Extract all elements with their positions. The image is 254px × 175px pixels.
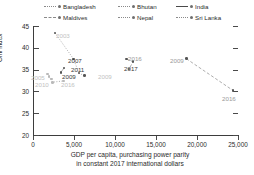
point-year-label: 2003 [56,32,70,39]
x-tick-label: 25,000 [218,141,254,149]
y-tick [34,70,39,71]
point-year-label: 2011 [71,66,84,73]
x-axis-line [33,135,239,136]
point-year-label: 2016 [61,81,75,88]
point-year-label: 2009 [62,73,76,80]
legend-swatch-dotted-icon [176,14,193,22]
y-axis-title: Gini index [0,34,3,62]
x-tick [156,136,157,140]
legend-label: Bhutan [137,3,157,11]
point-year-label: 2007 [68,57,82,64]
y-tick-right [233,113,238,114]
point-year-label: 2016 [128,55,142,62]
legend-swatch-dashed-icon [44,14,61,22]
legend-label: Bangladesh [63,3,96,11]
data-point[interactable] [51,81,54,84]
legend-item-sri-lanka[interactable]: Sri Lanka [176,13,234,23]
y-tick-label: 20 [7,132,29,139]
x-axis-title-line1: GDP per capita, purchasing power parity [30,150,230,159]
x-tick [33,136,34,140]
y-tick-label: 25 [7,110,29,117]
x-tick-label: 10,000 [95,141,135,149]
data-point[interactable] [63,67,66,70]
y-tick [34,48,39,49]
chart-root: Bangladesh Bhutan India Maldives Nepal S… [0,0,254,175]
x-axis-title: GDP per capita, purchasing power parity … [30,150,230,168]
legend-swatch-solid-icon [176,3,193,11]
y-tick [34,91,39,92]
y-tick [34,26,39,27]
x-tick-label: 15,000 [136,141,176,149]
x-tick [238,136,239,140]
y-axis-line [33,26,34,136]
legend-item-nepal[interactable]: Nepal [118,13,176,23]
x-tick [115,136,116,140]
point-year-label: 2009 [98,73,112,80]
point-year-label: 2009 [170,57,184,64]
y-tick [34,113,39,114]
y-tick-right [233,70,238,71]
x-axis-title-line2: in constant 2017 international dollars [30,159,230,168]
legend-label: India [195,3,208,11]
legend-swatch-dotted-icon [118,3,135,11]
point-year-label: 2016 [222,95,236,102]
data-point[interactable] [46,73,49,76]
chart-legend: Bangladesh Bhutan India Maldives Nepal S… [44,2,234,24]
point-year-label: 2005 [31,74,45,81]
data-point[interactable] [83,74,86,77]
legend-item-bangladesh[interactable]: Bangladesh [44,2,118,12]
point-year-label: 2010 [35,81,49,88]
legend-item-maldives[interactable]: Maldives [44,13,118,23]
legend-label: Sri Lanka [195,14,221,22]
data-point[interactable] [185,57,188,60]
x-tick [197,136,198,140]
legend-item-india[interactable]: India [176,2,234,12]
series-line-sri-lanka [186,59,233,91]
y-tick-label: 40 [7,44,29,51]
point-year-label: 2017 [124,65,138,72]
y-tick-right [233,26,238,27]
x-tick-label: 0 [13,141,53,149]
x-tick-label: 20,000 [177,141,217,149]
y-tick-label: 30 [7,88,29,95]
x-tick [74,136,75,140]
legend-label: Maldives [63,14,87,22]
y-tick-label: 45 [7,23,29,30]
x-tick-label: 5,000 [54,141,94,149]
y-tick [34,135,39,136]
legend-item-bhutan[interactable]: Bhutan [118,2,176,12]
y-tick-label: 35 [7,66,29,73]
legend-swatch-dotted-icon [44,3,61,11]
y-tick-right [233,48,238,49]
legend-swatch-dotted-icon [118,14,135,22]
legend-label: Nepal [137,14,153,22]
